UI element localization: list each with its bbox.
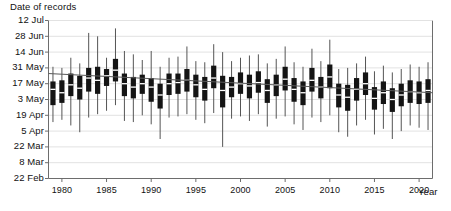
boxplot-item	[149, 51, 154, 124]
boxplot-item	[345, 68, 350, 137]
boxplot-item	[363, 57, 368, 120]
boxplot-item	[131, 54, 136, 122]
boxplot-item	[175, 57, 180, 117]
x-tick-label: 2015	[356, 185, 392, 195]
boxplot-item	[50, 67, 55, 122]
boxplot-box	[104, 69, 109, 86]
boxplot-item	[336, 69, 341, 132]
boxplot-box	[149, 78, 154, 102]
y-tick-label: 22 Feb	[0, 172, 44, 183]
boxplot-item	[354, 63, 359, 125]
y-tick-label: 3 May	[0, 93, 44, 104]
y-tick-label: 12 Jul	[0, 14, 44, 25]
boxplot-box	[175, 74, 180, 94]
boxplot-item	[211, 44, 216, 113]
boxplot-item	[381, 66, 386, 129]
x-tick-label: 2020	[401, 185, 437, 195]
boxplot-item	[202, 62, 207, 123]
y-tick-label: 22 Mar	[0, 140, 44, 151]
x-tick-label: 2005	[267, 185, 303, 195]
y-tick-label: 31 May	[0, 61, 44, 72]
boxplot-item	[390, 72, 395, 139]
boxplot-box	[50, 81, 55, 105]
boxplot-item	[166, 58, 171, 118]
x-tick-label: 2010	[312, 185, 348, 195]
x-tick-label: 1985	[89, 185, 125, 195]
y-tick-label: 5 Apr	[0, 125, 44, 136]
boxplot-item	[318, 61, 323, 122]
boxplot-item	[372, 71, 377, 134]
y-tick-label: 8 Mar	[0, 156, 44, 167]
boxplot-item	[265, 63, 270, 126]
boxplot-item	[425, 62, 430, 130]
x-tick-label: 1990	[133, 185, 169, 195]
x-tick-label: 2000	[223, 185, 259, 195]
y-tick-label: 28 Jun	[0, 30, 44, 41]
records-date-boxplot-chart: Date of records Year 12 Jul28 Jun14 Jun3…	[0, 0, 451, 211]
boxplot-box	[193, 75, 198, 98]
boxplot-item	[113, 28, 118, 105]
boxplot-item	[229, 61, 234, 119]
y-tick-label: 17 May	[0, 77, 44, 88]
boxplot-item	[158, 67, 163, 139]
boxplot-item	[220, 52, 225, 147]
boxplot-item	[399, 69, 404, 131]
boxplot-box	[220, 76, 225, 108]
boxplot-item	[283, 46, 288, 116]
boxplot-item	[238, 58, 243, 117]
y-tick-label: 19 Apr	[0, 109, 44, 120]
boxplot-item	[95, 36, 100, 114]
x-tick-label: 1995	[178, 185, 214, 195]
boxplot-item	[59, 68, 64, 120]
plot-area	[0, 0, 451, 211]
boxplot-item	[309, 49, 314, 118]
x-tick-label: 1980	[44, 185, 80, 195]
boxplot-item	[327, 40, 332, 116]
boxplot-box	[86, 68, 91, 92]
y-tick-label: 14 Jun	[0, 46, 44, 57]
boxplot-box	[211, 66, 216, 89]
boxplot-item	[300, 67, 305, 130]
boxplot-box	[158, 84, 163, 109]
boxplot-item	[104, 58, 109, 111]
boxplot-item	[193, 61, 198, 120]
boxplot-item	[417, 67, 422, 128]
boxplot-item	[77, 63, 82, 132]
boxplot-item	[122, 51, 127, 121]
boxplot-box	[59, 80, 64, 103]
boxplot-item	[408, 65, 413, 126]
boxplot-item	[247, 55, 252, 120]
